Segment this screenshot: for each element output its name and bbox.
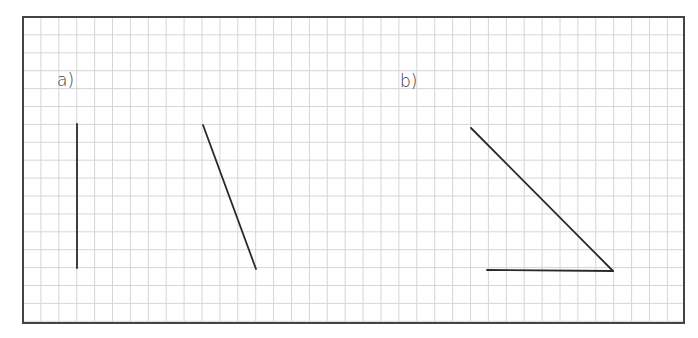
grid-lines — [23, 17, 684, 323]
worksheet-border — [23, 17, 684, 323]
line-segment — [203, 125, 256, 269]
line-segment — [487, 270, 613, 271]
grid-paper — [0, 0, 698, 338]
grid-worksheet: a) b) — [0, 0, 698, 338]
part-a-label: a) — [57, 72, 74, 89]
part-b-label: b) — [400, 73, 417, 90]
